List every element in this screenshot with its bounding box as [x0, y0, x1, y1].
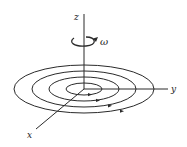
omega-label: ω [100, 36, 108, 47]
axes [36, 14, 168, 129]
x-axis-label: x [27, 130, 32, 140]
y-axis-label: y [170, 84, 177, 94]
rotating-disk-diagram: z ω y x [0, 0, 187, 147]
arrow-icon [88, 93, 92, 96]
arrow-icon [96, 99, 100, 102]
arrow-icon [120, 110, 124, 113]
z-axis-label: z [73, 12, 79, 22]
rotation-indicator [72, 37, 98, 46]
rotation-arrow-icon [72, 37, 95, 46]
